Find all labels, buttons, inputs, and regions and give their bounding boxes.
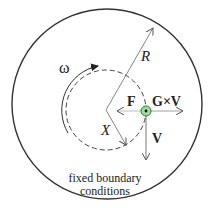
label-radius: R — [141, 49, 150, 64]
particle-center-dot — [145, 110, 148, 113]
label-force: F — [127, 95, 136, 109]
label-omega: ω — [59, 60, 70, 76]
label-position: X — [101, 123, 110, 138]
caption-line-2: conditions — [0, 185, 210, 197]
diagram-canvas: R ω F G×V V X fixed boundary conditions — [0, 0, 210, 217]
label-cross-product: G×V — [152, 95, 181, 109]
label-velocity: V — [152, 132, 162, 146]
caption-line-1: fixed boundary — [0, 172, 210, 184]
